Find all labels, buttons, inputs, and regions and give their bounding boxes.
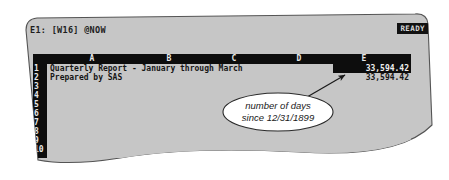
row-number-4[interactable]: 4 [33,91,47,100]
column-header-e[interactable]: E [357,54,371,64]
cell-e1-value-selected[interactable]: 33,594.42 [333,64,411,73]
cell-a2-text[interactable]: Prepared by SAS [50,73,122,82]
column-header-bar: A B C D E [33,54,411,64]
cell-e2-value[interactable]: 33,594.42 [333,73,411,82]
row-number-5[interactable]: 5 [33,100,47,109]
screenshot-illustration: E1: [W16] @NOW READY A B C D E 1 2 3 4 5… [0,0,449,180]
table-row: Prepared by SAS 33,594.42 [47,73,411,82]
column-header-b[interactable]: B [162,54,176,64]
cell-reference-display: E1: [W16] @NOW [30,24,106,36]
column-header-c[interactable]: C [227,54,241,64]
mode-indicator-ready: READY [397,23,428,34]
column-header-a[interactable]: A [85,54,99,64]
row-number-3[interactable]: 3 [33,82,47,91]
table-row: Quarterly Report - January through March… [47,64,411,73]
row-number-2[interactable]: 2 [33,73,47,82]
worksheet-grid[interactable]: A B C D E 1 2 3 4 5 6 7 8 9 10 [33,54,411,158]
row-number-1[interactable]: 1 [33,64,47,73]
row-number-7[interactable]: 7 [33,118,47,127]
column-header-d[interactable]: D [292,54,306,64]
cell-area: Quarterly Report - January through March… [47,64,411,158]
row-number-6[interactable]: 6 [33,109,47,118]
status-bar: E1: [W16] @NOW READY [30,24,430,38]
cell-a1-text[interactable]: Quarterly Report - January through March [50,64,243,73]
